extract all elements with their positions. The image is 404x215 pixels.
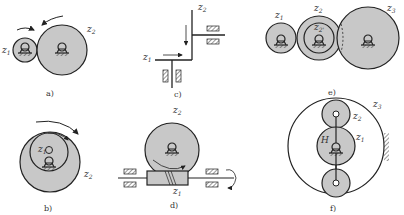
- svg-text:z3: z3: [372, 99, 382, 110]
- svg-text:z2: z2: [197, 2, 207, 13]
- panel-e: z1 z2 z2' z3 e): [266, 3, 399, 97]
- rotation-arrow-icon: [17, 28, 34, 30]
- svg-text:z1: z1: [274, 10, 284, 21]
- panel-c: z2 z1 c): [142, 2, 225, 99]
- svg-text:z1: z1: [142, 52, 152, 63]
- panel-b: z1 z2 b): [20, 121, 93, 213]
- caption-e: e): [328, 88, 336, 97]
- svg-text:z2: z2: [313, 3, 323, 14]
- svg-text:z1: z1: [1, 45, 11, 56]
- svg-text:z2: z2: [86, 24, 96, 35]
- gear-diagram: z1 z2 a) z2 z1 c) z1 z2 z2' z3 e): [0, 0, 404, 215]
- svg-text:H: H: [320, 135, 329, 145]
- panel-d: z2 z1 d): [118, 105, 236, 210]
- caption-b: b): [44, 204, 52, 213]
- rotation-arrow-icon: [42, 16, 63, 25]
- gear-z1: [13, 38, 37, 62]
- caption-a: a): [46, 89, 54, 98]
- caption-d: d): [170, 201, 178, 210]
- svg-text:z2: z2: [172, 105, 182, 116]
- svg-text:z1: z1: [172, 186, 182, 197]
- panel-a: z1 z2 a): [1, 16, 96, 98]
- caption-f: f): [330, 204, 336, 213]
- svg-text:z2: z2: [83, 169, 93, 180]
- panel-f: z2 z1 z3 H f): [288, 98, 389, 213]
- gear-z2: [37, 25, 87, 75]
- caption-c: c): [174, 90, 182, 99]
- svg-text:z3: z3: [386, 3, 396, 14]
